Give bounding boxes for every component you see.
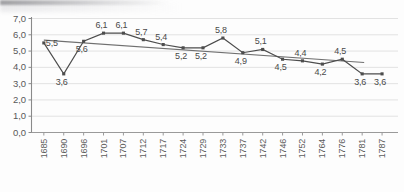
data-value-label: 3,6	[56, 77, 68, 87]
data-value-label: 5,5	[46, 38, 58, 48]
data-value-label: 4,9	[235, 56, 247, 66]
data-value-label: 5,7	[135, 27, 147, 37]
y-axis-tick-label: 5,0	[0, 45, 26, 56]
data-point-marker	[62, 72, 65, 75]
data-value-label: 4,2	[314, 67, 326, 77]
x-axis-tick-label: 1746	[278, 139, 288, 158]
x-axis-tick-label: 1776	[337, 139, 347, 158]
y-axis-tick-label: 3,0	[0, 78, 26, 89]
y-axis-tick-label: 4,0	[0, 61, 26, 72]
x-axis-tick-label: 1712	[138, 139, 148, 158]
x-axis-tick-label: 1696	[79, 139, 89, 158]
data-point-marker	[102, 32, 105, 35]
x-axis-tick-label: 1752	[297, 139, 307, 158]
data-point-marker	[221, 36, 224, 39]
data-value-label: 5,1	[255, 36, 267, 46]
data-point-marker	[341, 58, 344, 61]
data-value-label: 5,6	[76, 44, 88, 54]
x-axis-tick-label: 1724	[178, 139, 188, 158]
data-point-marker	[381, 72, 384, 75]
x-axis-tick-label: 1764	[317, 139, 327, 158]
plot-area	[0, 0, 404, 192]
x-axis-tick-label: 1707	[118, 139, 128, 158]
data-point-marker	[162, 43, 165, 46]
data-point-marker	[182, 46, 185, 49]
data-value-label: 5,2	[175, 51, 187, 61]
x-axis-tick-label: 1690	[59, 139, 69, 158]
data-point-marker	[241, 51, 244, 54]
y-axis-tick-label: 0,0	[0, 127, 26, 138]
x-axis-tick-label: 1717	[158, 139, 168, 158]
line-chart: 0,01,02,03,04,05,06,07,0 168516901696170…	[0, 0, 404, 192]
data-point-marker	[201, 46, 204, 49]
data-point-marker	[281, 58, 284, 61]
y-axis-tick-label: 2,0	[0, 94, 26, 105]
y-axis-tick-label: 1,0	[0, 110, 26, 121]
data-value-label: 3,6	[374, 77, 386, 87]
x-axis-tick-label: 1729	[198, 139, 208, 158]
data-value-label: 4,4	[294, 48, 306, 58]
y-axis-tick-label: 6,0	[0, 29, 26, 40]
data-point-marker	[261, 48, 264, 51]
data-point-markers	[42, 32, 383, 76]
x-axis-tick-label: 1787	[377, 139, 387, 158]
x-axis-tick-label: 1781	[357, 139, 367, 158]
x-axis-tick-label: 1733	[218, 139, 228, 158]
data-value-label: 5,2	[195, 51, 207, 61]
data-point-marker	[122, 32, 125, 35]
data-point-marker	[82, 40, 85, 43]
data-value-label: 3,6	[354, 77, 366, 87]
data-value-label: 4,5	[275, 62, 287, 72]
data-point-marker	[321, 63, 324, 66]
x-axis-tick-label: 1685	[39, 139, 49, 158]
data-value-label: 5,8	[215, 25, 227, 35]
x-axis-tick-label: 1742	[258, 139, 268, 158]
x-axis-tick-label: 1737	[238, 139, 248, 158]
data-value-label: 5,4	[155, 32, 167, 42]
data-point-marker	[142, 38, 145, 41]
data-point-marker	[301, 59, 304, 62]
data-value-label: 6,1	[96, 20, 108, 30]
x-axis-tick-label: 1701	[99, 139, 109, 158]
data-point-marker	[361, 72, 364, 75]
data-value-label: 6,1	[115, 20, 127, 30]
y-axis-tick-label: 7,0	[0, 13, 26, 24]
data-value-label: 4,5	[334, 46, 346, 56]
